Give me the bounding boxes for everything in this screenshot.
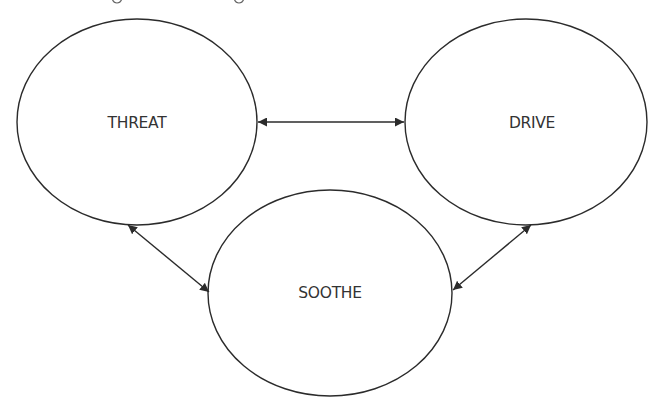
arrow-drive-soothe: [453, 225, 531, 290]
node-drive: DRIVE: [405, 19, 647, 225]
three-systems-diagram: THREAT DRIVE SOOTHE: [0, 0, 655, 407]
drive-label: DRIVE: [509, 114, 555, 132]
node-soothe: SOOTHE: [208, 190, 452, 396]
arrow-threat-soothe: [128, 225, 209, 292]
threat-label: THREAT: [107, 114, 168, 132]
soothe-label: SOOTHE: [298, 284, 361, 302]
node-threat: THREAT: [17, 19, 257, 225]
clipped-caption-fragment: [112, 0, 244, 3]
